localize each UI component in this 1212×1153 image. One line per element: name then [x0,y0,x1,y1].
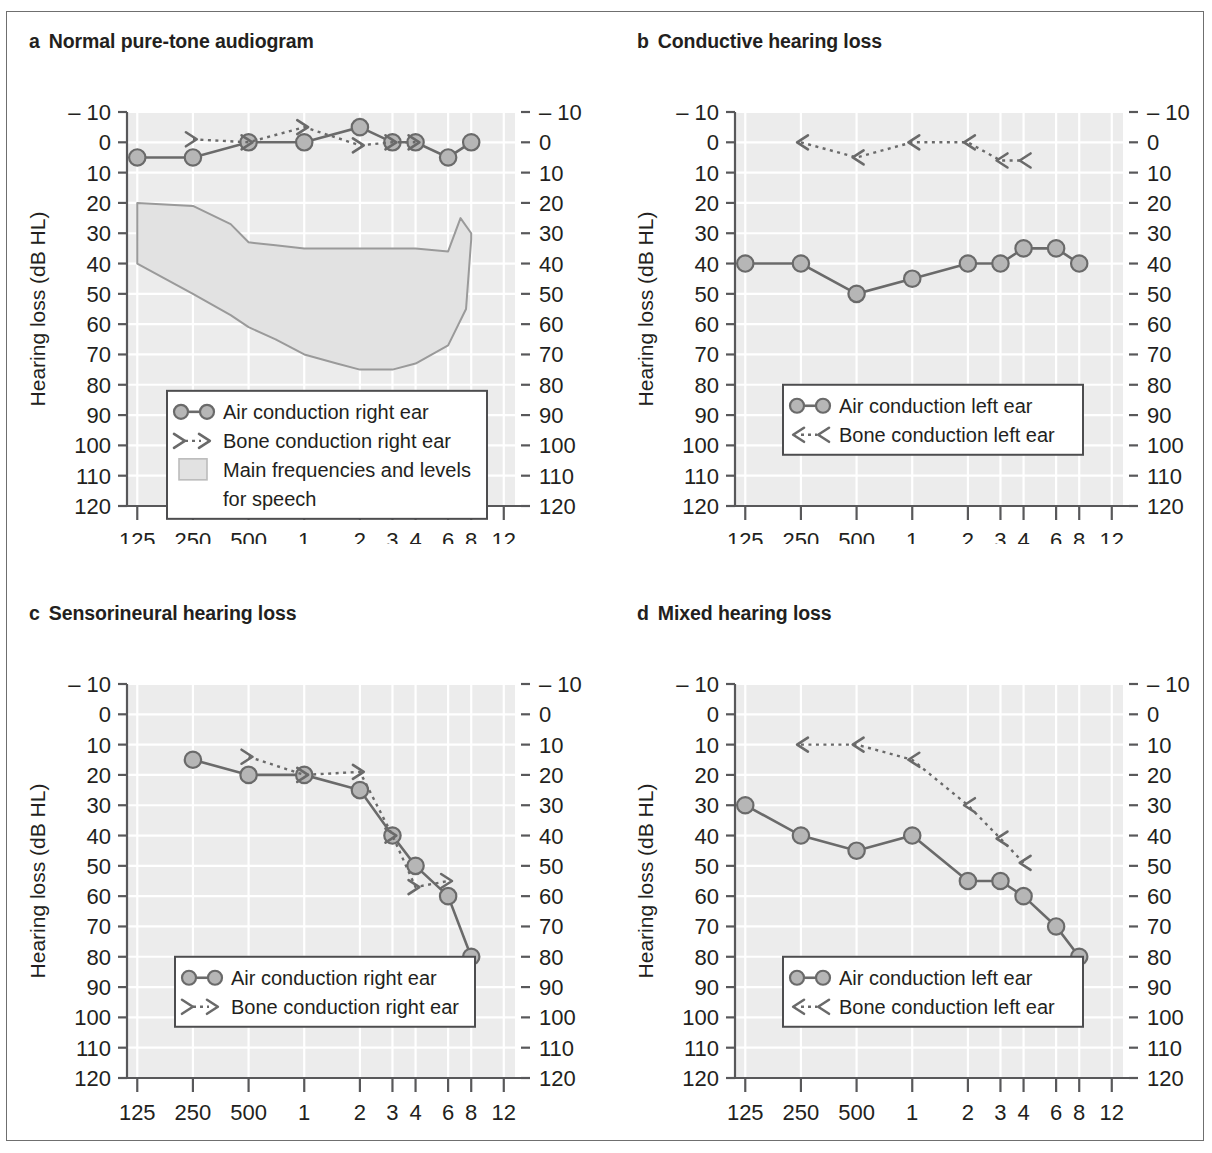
legend-label: Air conduction right ear [223,401,429,423]
y-tick-label-right: 40 [1147,252,1171,277]
y-tick-label-right: 0 [539,702,551,727]
x-tick-label: 2 [354,1100,366,1125]
y-tick-label-left: 120 [74,494,111,519]
y-tick-label-right: 30 [1147,793,1171,818]
air-conduction-marker [904,270,920,286]
y-axis-title: Hearing loss (dB HL) [634,212,657,407]
panel-d-letter: d [637,602,649,624]
air-conduction-marker [737,255,753,271]
y-tick-label-left: 120 [682,1066,719,1091]
x-tick-label: 500 [838,528,875,544]
x-tick-label: 8 [465,528,477,544]
y-tick-label-left: 60 [695,312,719,337]
y-tick-label-right: 80 [539,373,563,398]
legend: Air conduction right earBone conduction … [175,957,475,1027]
y-tick-label-right: 80 [1147,373,1171,398]
y-tick-label-left: 0 [707,702,719,727]
y-tick-label-right: 40 [539,824,563,849]
x-tick-label: 1 [298,528,310,544]
air-conduction-marker [185,149,201,165]
panel-b-title-text: Conductive hearing loss [658,30,882,52]
y-tick-label-left: 110 [684,464,719,489]
legend: Air conduction left earBone conduction l… [783,957,1083,1027]
y-tick-label-right: 10 [539,733,563,758]
x-tick-label: 4 [409,528,421,544]
y-tick-label-left: 0 [99,130,111,155]
y-tick-label-left: 90 [87,975,111,1000]
y-tick-label-left: 20 [87,763,111,788]
y-tick-label-left: 100 [74,1005,111,1030]
x-tick-label: 6 [1050,528,1062,544]
x-tick-label: 6 [442,1100,454,1125]
legend-label: Bone conduction right ear [231,996,459,1018]
y-tick-label-right: – 10 [1147,672,1190,697]
y-tick-label-left: 20 [695,763,719,788]
x-tick-label: 12 [1100,528,1124,544]
x-tick-label: 500 [838,1100,875,1125]
y-tick-label-left: 40 [695,252,719,277]
y-tick-label-right: 10 [539,161,563,186]
x-tick-label: 4 [1017,528,1029,544]
air-conduction-marker [992,873,1008,889]
y-tick-label-left: 100 [682,1005,719,1030]
y-tick-label-right: 120 [1147,1066,1184,1091]
x-axis: 12525050012346812 [727,1078,1124,1125]
air-conduction-marker [129,149,145,165]
legend: Air conduction left earBone conduction l… [783,385,1083,455]
x-tick-label: 3 [386,1100,398,1125]
air-conduction-marker [352,119,368,135]
y-tick-label-right: 20 [539,191,563,216]
panel-c-title-text: Sensorineural hearing loss [49,602,297,624]
y-tick-label-right: 60 [539,884,563,909]
y-tick-label-left: 20 [87,191,111,216]
y-tick-label-right: 90 [539,975,563,1000]
y-tick-label-right: 50 [1147,282,1171,307]
air-conduction-marker [1048,240,1064,256]
y-tick-label-left: 80 [695,945,719,970]
legend-air-marker [208,971,222,985]
x-tick-label: 6 [1050,1100,1062,1125]
air-conduction-marker [737,797,753,813]
legend-air-marker [816,971,830,985]
figure-frame: aNormal pure-tone audiogram– 10– 1000101… [6,11,1204,1141]
y-tick-label-left: 60 [695,884,719,909]
x-tick-label: 8 [1073,1100,1085,1125]
y-tick-label-right: 20 [539,763,563,788]
legend-label: Air conduction left ear [839,395,1033,417]
y-tick-label-left: – 10 [676,672,719,697]
panel-a: aNormal pure-tone audiogram– 10– 1000101… [15,24,595,544]
y-tick-label-right: 90 [539,403,563,428]
y-tick-label-left: 80 [695,373,719,398]
air-conduction-marker [185,752,201,768]
y-tick-label-right: 60 [1147,884,1171,909]
y-tick-label-left: 30 [695,793,719,818]
panel-c-chart: – 10– 1000101020203030404050506060707080… [15,626,595,1126]
y-tick-label-right: – 10 [539,672,582,697]
x-tick-label: 125 [119,528,156,544]
y-tick-label-left: 30 [87,221,111,246]
x-tick-label: 2 [354,528,366,544]
y-tick-label-left: 0 [99,702,111,727]
y-tick-label-left: 90 [695,403,719,428]
panel-c: cSensorineural hearing loss– 10– 1000101… [15,596,595,1126]
x-tick-label: 125 [727,528,764,544]
y-tick-label-right: 30 [539,221,563,246]
x-tick-label: 4 [1017,1100,1029,1125]
panel-d-chart: – 10– 1000101020203030404050506060707080… [623,626,1203,1126]
air-conduction-marker [960,255,976,271]
x-tick-label: 125 [727,1100,764,1125]
y-tick-label-right: 120 [1147,494,1184,519]
x-tick-label: 500 [230,528,267,544]
legend-label: Bone conduction left ear [839,424,1055,446]
y-tick-label-right: 20 [1147,763,1171,788]
y-tick-label-right: 100 [539,1005,576,1030]
air-conduction-marker [904,827,920,843]
legend: Air conduction right earBone conduction … [167,391,487,519]
air-conduction-marker [992,255,1008,271]
y-tick-label-right: 120 [539,494,576,519]
legend-label: Bone conduction right ear [223,430,451,452]
y-tick-label-left: 0 [707,130,719,155]
panel-c-letter: c [29,602,40,624]
y-tick-label-left: 80 [87,945,111,970]
y-tick-label-right: 0 [1147,702,1159,727]
